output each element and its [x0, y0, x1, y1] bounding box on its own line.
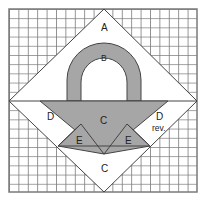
label-e-right: E — [125, 135, 132, 146]
label-d-right-rev: rev. — [152, 123, 166, 133]
quilt-block-diagram: A B C D D rev. E E C — [0, 0, 210, 202]
label-d-left: D — [47, 111, 54, 122]
label-c-bottom: C — [101, 163, 108, 174]
label-a: A — [101, 22, 108, 33]
label-b: B — [101, 53, 107, 63]
label-d-right: D — [156, 111, 163, 122]
label-c-top: C — [100, 115, 107, 126]
label-e-left: E — [76, 135, 83, 146]
